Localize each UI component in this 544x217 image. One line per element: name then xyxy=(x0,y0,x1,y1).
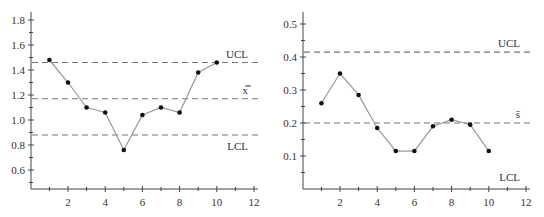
x-tick-label: 10 xyxy=(483,196,495,208)
y-tick-label: 1.6 xyxy=(11,39,25,51)
y-tick-label: 1.4 xyxy=(11,64,25,76)
xbar-control-chart: 246810120.60.81.01.21.41.61.8UCLx̿LCL xyxy=(11,12,259,208)
y-tick-label: 0.4 xyxy=(283,51,297,63)
x-tick-label: 4 xyxy=(102,196,108,208)
data-point xyxy=(103,110,108,115)
data-point xyxy=(84,105,89,110)
data-point xyxy=(487,149,492,154)
data-point xyxy=(122,148,127,153)
y-tick-label: 0.2 xyxy=(283,117,297,129)
lcl-label: LCL xyxy=(499,171,520,183)
ucl-label: UCL xyxy=(226,48,248,60)
x-tick-label: 2 xyxy=(65,196,71,208)
data-point xyxy=(159,105,164,110)
data-point xyxy=(431,124,436,129)
y-tick-label: 0.5 xyxy=(283,18,297,30)
data-line xyxy=(49,60,216,150)
y-tick-label: 0.3 xyxy=(283,84,297,96)
data-point xyxy=(338,71,343,76)
lcl-label: LCL xyxy=(227,140,248,152)
x-tick-label: 2 xyxy=(337,196,343,208)
data-point xyxy=(468,122,473,127)
y-tick-label: 0.8 xyxy=(11,139,25,151)
y-tick-label: 1.2 xyxy=(11,89,25,101)
x-tick-label: 12 xyxy=(521,196,532,208)
x-tick-label: 4 xyxy=(374,196,380,208)
data-point xyxy=(66,80,71,85)
x-tick-label: 10 xyxy=(211,196,223,208)
y-tick-label: 0.1 xyxy=(283,150,297,162)
x-tick-label: 8 xyxy=(177,196,183,208)
ucl-label: UCL xyxy=(498,37,520,49)
data-point xyxy=(319,101,324,106)
x-tick-label: 12 xyxy=(249,196,260,208)
y-tick-label: 1.8 xyxy=(11,14,25,26)
data-point xyxy=(215,60,220,65)
data-point xyxy=(356,93,361,98)
data-point xyxy=(196,70,201,75)
data-point xyxy=(47,58,52,63)
data-point xyxy=(140,113,145,118)
control-charts: 246810120.60.81.01.21.41.61.8UCLx̿LCL 24… xyxy=(0,0,544,217)
y-tick-label: 1.0 xyxy=(11,114,25,126)
x-tick-label: 6 xyxy=(412,196,418,208)
data-point xyxy=(449,117,454,122)
x-tick-label: 6 xyxy=(140,196,146,208)
x-tick-label: 8 xyxy=(449,196,455,208)
y-tick-label: 0.6 xyxy=(11,164,25,176)
data-point xyxy=(375,126,380,131)
center-label: s̄ xyxy=(516,108,520,120)
data-point xyxy=(412,149,417,154)
data-point xyxy=(394,149,399,154)
data-point xyxy=(177,110,182,115)
data-line xyxy=(321,74,488,152)
s-control-chart: 246810120.10.20.30.40.5UCLs̄LCL xyxy=(283,12,531,208)
center-label: x̿ xyxy=(243,84,252,96)
